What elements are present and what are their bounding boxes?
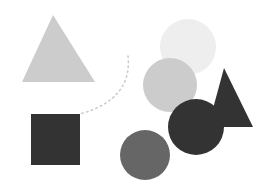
shape-canvas-svg xyxy=(0,0,267,196)
dark-circle xyxy=(168,99,224,155)
medium-gray-circle xyxy=(120,130,170,180)
dark-square xyxy=(31,114,80,165)
shape-composition-canvas xyxy=(0,0,267,196)
